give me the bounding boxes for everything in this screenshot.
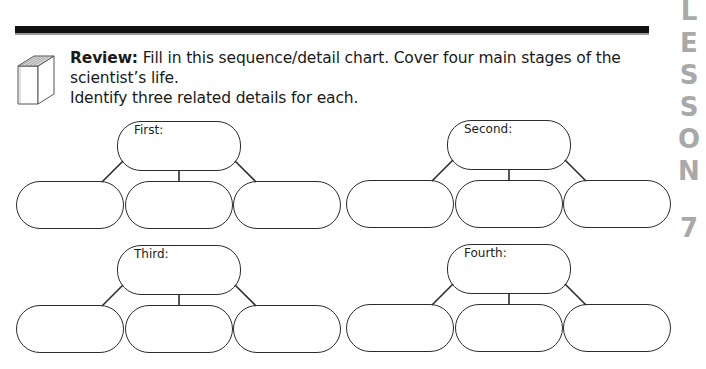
stage-label: First: (134, 123, 163, 137)
header-rule (15, 26, 649, 33)
stage-label: Fourth: (464, 246, 507, 260)
instructions: Review: Fill in this sequence/detail cha… (70, 48, 650, 108)
stage-box-fourth[interactable]: Fourth: (447, 244, 571, 294)
lesson-tab: L E S S O N 7 (676, 0, 702, 250)
instructions-line-1: Review: Fill in this sequence/detail cha… (70, 48, 650, 88)
lesson-letter: S (676, 94, 702, 120)
detail-box-1[interactable] (16, 181, 124, 229)
stage-box-third[interactable]: Third: (117, 245, 241, 295)
instructions-line-2: Identify three related details for each. (70, 88, 650, 108)
detail-box-2[interactable] (125, 305, 233, 353)
stage-label: Third: (134, 247, 169, 261)
sequence-diagram-fourth: Fourth: (346, 244, 676, 359)
lesson-letter: L (676, 0, 702, 24)
sequence-diagram-second: Second: (346, 120, 676, 235)
detail-box-2[interactable] (455, 180, 563, 228)
detail-box-3[interactable] (233, 305, 341, 353)
sequence-diagram-first: First: (16, 121, 346, 236)
stage-label: Second: (464, 122, 512, 136)
detail-box-2[interactable] (455, 304, 563, 352)
lesson-letter: O (676, 126, 702, 152)
detail-box-3[interactable] (563, 304, 671, 352)
stage-box-first[interactable]: First: (117, 121, 241, 171)
detail-box-3[interactable] (563, 180, 671, 228)
instructions-text-1: Fill in this sequence/detail chart. Cove… (70, 49, 621, 87)
detail-box-2[interactable] (125, 181, 233, 229)
lesson-number: 7 (676, 215, 702, 241)
sequence-diagram-third: Third: (16, 245, 346, 360)
lesson-letter: N (676, 158, 702, 184)
detail-box-1[interactable] (346, 180, 454, 228)
book-icon (16, 54, 58, 106)
stage-box-second[interactable]: Second: (447, 120, 571, 170)
review-label: Review: (70, 49, 138, 67)
detail-box-1[interactable] (16, 305, 124, 353)
detail-box-1[interactable] (346, 304, 454, 352)
lesson-letter: S (676, 62, 702, 88)
detail-box-3[interactable] (233, 181, 341, 229)
lesson-letter: E (676, 30, 702, 56)
